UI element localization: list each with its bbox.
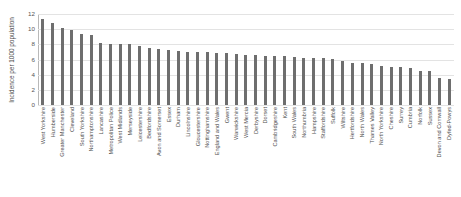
x-axis-label-slot: Merseyside: [125, 107, 135, 195]
x-axis-tick-label: Warwickshire: [233, 107, 239, 140]
x-axis-label-slot: Bedfordshire: [144, 107, 154, 195]
x-axis-tick-label: Northumbria: [301, 107, 307, 138]
x-axis-label-slot: Nottinghamshire: [202, 107, 212, 195]
bar-slot: [144, 14, 154, 105]
bar: [90, 35, 93, 105]
x-axis-tick-label: Leicestershire: [137, 107, 143, 142]
x-axis-tick-label: Hertfordshire: [349, 107, 355, 139]
bar: [370, 64, 373, 105]
bar-chart: Incidence per 1000 population 024681012 …: [0, 0, 461, 197]
bar: [254, 55, 257, 105]
bar-slot: [270, 14, 280, 105]
x-axis-tick-label: Dorset: [262, 107, 268, 123]
bar-slot: [77, 14, 87, 105]
bar: [273, 56, 276, 105]
x-axis-label-slot: Leicestershire: [135, 107, 145, 195]
x-axis-label-slot: South Yorkshire: [77, 107, 87, 195]
bar: [264, 56, 267, 105]
bar: [380, 66, 383, 105]
x-axis-tick-label: Hampshire: [311, 107, 317, 134]
bar-slot: [38, 14, 48, 105]
bar: [312, 58, 315, 105]
bar: [225, 53, 228, 105]
bar-slot: [260, 14, 270, 105]
x-axis-label-slot: Dyfed-Powys: [444, 107, 454, 195]
x-axis-tick-label: Norfolk: [417, 107, 423, 125]
bar-slot: [348, 14, 358, 105]
x-axis-label-slot: Lancashire: [96, 107, 106, 195]
x-axis-label-slot: Hertfordshire: [348, 107, 358, 195]
bar-slot: [357, 14, 367, 105]
bar-slot: [425, 14, 435, 105]
x-axis-tick-label: West Yorkshire: [40, 107, 46, 144]
x-axis-tick-label: Suffolk: [330, 107, 336, 124]
bar-slot: [173, 14, 183, 105]
x-axis-tick-label: Kent: [282, 107, 288, 119]
x-axis-tick-label: Nottinghamshire: [204, 107, 210, 148]
x-axis-label-slot: Wiltshire: [338, 107, 348, 195]
bar-slot: [57, 14, 67, 105]
x-axis-tick-label: Surrey: [398, 107, 404, 123]
bar-slot: [48, 14, 58, 105]
bar: [351, 63, 354, 105]
x-axis-tick-label: Lancashire: [98, 107, 104, 134]
x-axis-label-slot: Avon and Somerset: [154, 107, 164, 195]
x-axis-label-slot: West Midlands: [115, 107, 125, 195]
x-axis-label-slot: Gloucestershire: [193, 107, 203, 195]
bar: [138, 46, 141, 105]
bar-slot: [435, 14, 445, 105]
bar: [109, 44, 112, 105]
bar: [283, 56, 286, 105]
plot-area: 024681012: [38, 14, 454, 105]
x-axis-tick-label: South Wales: [291, 107, 297, 139]
x-axis-tick-label: Metropolitan Police: [108, 107, 114, 155]
x-axis-tick-label: Durham: [175, 107, 181, 127]
x-axis-tick-label: South Yorkshire: [79, 107, 85, 146]
x-axis-label-slot: Essex: [164, 107, 174, 195]
bar: [293, 57, 296, 105]
x-axis-tick-label: Northamptonshire: [88, 107, 94, 151]
bar: [235, 54, 238, 105]
x-axis-label-slot: Northamptonshire: [86, 107, 96, 195]
bar-slot: [125, 14, 135, 105]
x-axis-tick-label: West Mercia: [243, 107, 249, 138]
bar: [206, 52, 209, 105]
bar: [361, 63, 364, 105]
x-axis-tick-label: Bedfordshire: [146, 107, 152, 139]
x-axis-label-slot: Surrey: [396, 107, 406, 195]
x-axis-label-slot: Devon and Cornwall: [435, 107, 445, 195]
bar: [70, 30, 73, 105]
bar-slot: [135, 14, 145, 105]
x-axis-tick-label: Cheshire: [388, 107, 394, 129]
x-axis-tick-label: Wiltshire: [340, 107, 346, 128]
x-axis-tick-label: North Wales: [359, 107, 365, 138]
x-axis-tick-label: Dyfed-Powys: [446, 107, 452, 140]
bar-slot: [338, 14, 348, 105]
x-axis-label-slot: Gwent: [222, 107, 232, 195]
x-axis-tick-label: Greater Manchester: [59, 107, 65, 157]
bar-slot: [222, 14, 232, 105]
x-axis-label-slot: Greater Manchester: [57, 107, 67, 195]
bar: [186, 52, 189, 105]
x-axis-tick-label: Essex: [166, 107, 172, 122]
bar-slot: [106, 14, 116, 105]
bar: [148, 48, 151, 105]
x-axis-label-slot: Cambridgeshire: [270, 107, 280, 195]
x-axis-tick-label: Derbyshire: [253, 107, 259, 134]
x-axis-label-slot: Thames Valley: [367, 107, 377, 195]
bar-slot: [231, 14, 241, 105]
x-axis-tick-label: Lincolnshire: [185, 107, 191, 137]
x-axis-tick-label: Cambridgeshire: [272, 107, 278, 146]
bar-slot: [289, 14, 299, 105]
x-axis-label-slot: Lincolnshire: [183, 107, 193, 195]
bar-slot: [386, 14, 396, 105]
bar: [61, 28, 64, 105]
x-axis-label-slot: Humberside: [48, 107, 58, 195]
x-axis-tick-label: Gwent: [224, 107, 230, 123]
x-axis-tick-label: Devon and Cornwall: [436, 107, 442, 157]
x-axis-tick-label: Cumbria: [407, 107, 413, 128]
bar: [438, 78, 441, 105]
bar-slot: [280, 14, 290, 105]
y-axis-tick-label: 2: [32, 87, 35, 93]
x-axis-tick-label: Cleveland: [69, 107, 75, 132]
